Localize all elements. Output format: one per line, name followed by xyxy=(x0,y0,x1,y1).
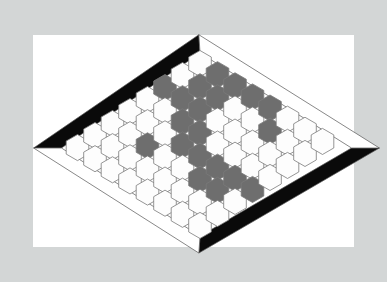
board-cells[interactable] xyxy=(66,51,334,239)
screenshot-root xyxy=(0,0,387,282)
hex-board-container[interactable] xyxy=(0,0,387,282)
hex-board-svg[interactable] xyxy=(0,0,387,282)
